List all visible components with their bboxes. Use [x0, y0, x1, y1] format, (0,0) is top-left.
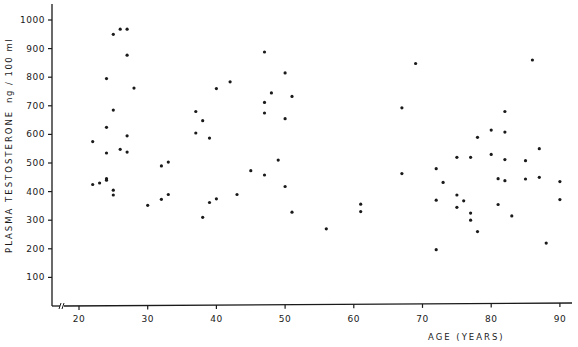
- data-point: [284, 71, 287, 74]
- data-point: [215, 87, 218, 90]
- data-point: [497, 203, 500, 206]
- y-tick-label: 600: [26, 129, 45, 139]
- x-tick-label: 20: [73, 314, 85, 324]
- y-tick-label: 100: [26, 272, 45, 282]
- data-point: [524, 177, 527, 180]
- data-point: [400, 172, 403, 175]
- data-points: [91, 28, 561, 252]
- data-point: [400, 106, 403, 109]
- data-point: [462, 199, 465, 202]
- y-axis-unit: ng / 100 ml: [4, 38, 14, 103]
- y-tick-label: 300: [26, 215, 45, 225]
- data-point: [503, 179, 506, 182]
- data-point: [112, 109, 115, 112]
- data-point: [538, 147, 541, 150]
- data-point: [112, 33, 115, 36]
- data-point: [442, 181, 445, 184]
- data-point: [359, 210, 362, 213]
- data-point: [112, 189, 115, 192]
- x-tick-label: 70: [416, 314, 428, 324]
- x-tick-label: 60: [348, 314, 360, 324]
- data-point: [98, 181, 101, 184]
- x-axis-ticks: 2030405060708090: [73, 303, 566, 324]
- data-point: [146, 204, 149, 207]
- data-point: [132, 87, 135, 90]
- data-point: [469, 219, 472, 222]
- data-point: [105, 179, 108, 182]
- data-point: [290, 211, 293, 214]
- data-point: [263, 111, 266, 114]
- data-point: [277, 159, 280, 162]
- data-point: [503, 110, 506, 113]
- data-point: [503, 131, 506, 134]
- data-point: [263, 173, 266, 176]
- data-point: [229, 80, 232, 83]
- data-point: [263, 50, 266, 53]
- data-point: [119, 148, 122, 151]
- data-point: [126, 151, 129, 154]
- x-tick-label: 50: [279, 314, 291, 324]
- data-point: [538, 176, 541, 179]
- data-point: [167, 193, 170, 196]
- data-point: [455, 156, 458, 159]
- y-tick-label: 400: [26, 187, 45, 197]
- y-axis-title: PLASMA TESTOSTERONE: [4, 110, 14, 253]
- data-point: [215, 197, 218, 200]
- data-point: [435, 167, 438, 170]
- data-point: [435, 199, 438, 202]
- x-axis-title: AGE (YEARS): [428, 332, 505, 342]
- x-tick-label: 40: [210, 314, 222, 324]
- data-point: [263, 101, 266, 104]
- data-point: [510, 214, 513, 217]
- data-point: [91, 140, 94, 143]
- data-point: [325, 227, 328, 230]
- axes: [52, 4, 572, 309]
- data-point: [558, 180, 561, 183]
- x-axis-line: [64, 303, 572, 306]
- data-point: [359, 203, 362, 206]
- data-point: [435, 248, 438, 251]
- data-point: [112, 193, 115, 196]
- data-point: [455, 206, 458, 209]
- data-point: [126, 134, 129, 137]
- data-point: [105, 77, 108, 80]
- axis-break-mark: [62, 303, 64, 309]
- data-point: [469, 212, 472, 215]
- scatter-chart: 1002003004005006007008009001000 20304050…: [0, 0, 578, 347]
- data-point: [455, 193, 458, 196]
- y-tick-label: 700: [26, 101, 45, 111]
- data-point: [194, 110, 197, 113]
- y-axis-ticks: 1002003004005006007008009001000: [20, 15, 52, 282]
- data-point: [531, 58, 534, 61]
- y-tick-label: 800: [26, 72, 45, 82]
- data-point: [284, 185, 287, 188]
- data-point: [201, 216, 204, 219]
- data-point: [490, 129, 493, 132]
- data-point: [126, 54, 129, 57]
- data-point: [194, 131, 197, 134]
- y-tick-label: 500: [26, 158, 45, 168]
- data-point: [503, 158, 506, 161]
- data-point: [270, 91, 273, 94]
- data-point: [524, 159, 527, 162]
- y-tick-label: 200: [26, 244, 45, 254]
- x-tick-label: 80: [485, 314, 497, 324]
- data-point: [290, 95, 293, 98]
- y-tick-label: 900: [26, 44, 45, 54]
- data-point: [249, 169, 252, 172]
- data-point: [476, 230, 479, 233]
- data-point: [208, 201, 211, 204]
- data-point: [201, 119, 204, 122]
- data-point: [105, 126, 108, 129]
- data-point: [160, 164, 163, 167]
- x-tick-label: 90: [554, 314, 566, 324]
- data-point: [469, 156, 472, 159]
- data-point: [558, 198, 561, 201]
- data-point: [105, 151, 108, 154]
- data-point: [545, 242, 548, 245]
- y-tick-label: 1000: [20, 15, 45, 25]
- data-point: [208, 137, 211, 140]
- data-point: [235, 193, 238, 196]
- data-point: [476, 136, 479, 139]
- data-point: [167, 161, 170, 164]
